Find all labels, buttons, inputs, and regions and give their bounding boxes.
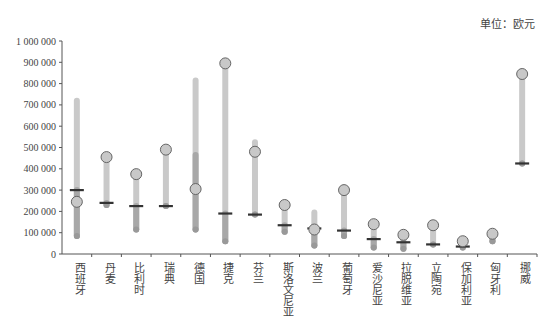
highlight-circle — [279, 200, 290, 211]
highlight-circle — [368, 219, 379, 230]
highlight-circle — [428, 220, 439, 231]
highlight-circle — [517, 69, 528, 80]
data-dot — [400, 246, 406, 252]
data-dot — [74, 233, 80, 239]
x-tick-label: 斯洛文尼亚 — [279, 262, 293, 317]
x-tick-label: 捷克 — [219, 262, 233, 284]
data-dot — [341, 233, 347, 239]
highlight-circle — [101, 152, 112, 163]
x-tick-label: 比利时 — [130, 262, 144, 295]
highlight-circle — [487, 228, 498, 239]
highlight-circle — [249, 146, 260, 157]
highlight-circle — [457, 236, 468, 247]
y-tick-label: 100 000 — [24, 227, 57, 238]
data-dot — [371, 245, 377, 251]
x-tick-label: 爱沙尼亚 — [368, 262, 382, 306]
highlight-circle — [190, 184, 201, 195]
y-tick-label: 400 000 — [24, 163, 57, 174]
highlight-circle — [309, 224, 320, 235]
x-tick-label: 保加利亚 — [457, 262, 471, 306]
x-tick-label: 波兰 — [308, 262, 322, 284]
highlight-circle — [131, 169, 142, 180]
data-dot — [222, 238, 228, 244]
x-tick-label: 西班牙 — [71, 262, 85, 295]
y-tick-label: 600 000 — [24, 121, 57, 132]
highlight-circle — [71, 196, 82, 207]
highlight-circle — [160, 144, 171, 155]
data-dot — [282, 229, 288, 235]
y-tick-label: 500 000 — [24, 142, 57, 153]
y-tick-label: 0 — [51, 249, 56, 260]
data-dot — [311, 242, 317, 248]
data-dot — [193, 227, 199, 233]
x-tick-label: 匈牙利 — [486, 262, 500, 295]
x-tick-label: 拉脱维亚 — [397, 262, 411, 306]
x-tick-label: 挪威 — [516, 262, 530, 284]
x-tick-label: 瑞典 — [160, 262, 174, 284]
y-tick-label: 800 000 — [24, 78, 57, 89]
x-tick-label: 立陶宛 — [427, 262, 441, 295]
unit-label: 单位：欧元 — [480, 15, 535, 31]
y-tick-label: 300 000 — [24, 185, 57, 196]
x-tick-label: 德国 — [190, 262, 204, 284]
x-tick-label: 葡萄牙 — [338, 262, 352, 295]
y-tick-label: 200 000 — [24, 206, 57, 217]
highlight-circle — [339, 185, 350, 196]
x-tick-label: 丹麦 — [101, 262, 115, 284]
highlight-circle — [398, 229, 409, 240]
highlight-circle — [220, 58, 231, 69]
y-tick-label: 700 000 — [24, 99, 57, 110]
data-dot — [133, 227, 139, 233]
x-tick-label: 芬兰 — [249, 262, 263, 284]
y-tick-label: 900 000 — [24, 57, 57, 68]
y-tick-label: 1 000 000 — [16, 36, 56, 47]
